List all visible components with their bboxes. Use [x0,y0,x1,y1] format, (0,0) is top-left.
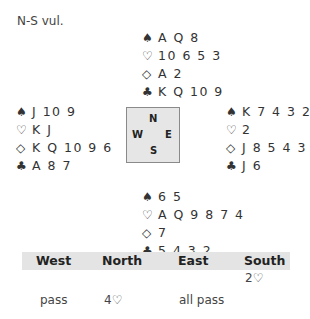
auction-header: West North East South [22,252,290,270]
heart-icon: ♡ [142,207,158,224]
header-north: North [102,253,142,268]
south-spades: ♠6 5 [142,188,245,206]
diamond-icon: ◇ [226,140,242,157]
west-clubs: ♣A 8 7 [16,157,113,175]
heart-icon: ♡ [142,48,158,65]
diamond-icon: ◇ [142,225,158,242]
diamond-icon: ◇ [142,66,158,83]
spade-icon: ♠ [16,104,32,121]
north-clubs: ♣K Q 10 9 [142,83,224,101]
north-spades: ♠A Q 8 [142,29,224,47]
bid-south-1: 2♡ [245,271,263,285]
east-diamonds: ◇J 8 5 4 3 [226,139,310,157]
south-hearts: ♡A Q 9 8 7 4 [142,206,245,224]
heart-icon: ♡ [16,122,32,139]
bid-east-2: all pass [179,293,224,307]
club-icon: ♣ [142,84,158,101]
compass-south: S [150,145,157,156]
east-hand: ♠K 7 4 3 2 ♡2 ◇J 8 5 4 3 ♣J 6 [226,103,310,175]
north-diamonds: ◇A 2 [142,65,224,83]
west-hearts: ♡K J [16,121,113,139]
bid-north-2: 4♡ [104,293,122,307]
west-spades: ♠J 10 9 [16,103,113,121]
east-spades: ♠K 7 4 3 2 [226,103,310,121]
compass-west: W [132,129,143,140]
header-west: West [36,253,71,268]
south-diamonds: ◇7 [142,224,245,242]
compass-east: E [165,129,172,140]
diamond-icon: ◇ [16,140,32,157]
vulnerability-label: N-S vul. [17,14,64,28]
bid-west-2: pass [40,293,67,307]
spade-icon: ♠ [142,30,158,47]
auction-table: West North East South 2♡ pass 4♡ all pas… [22,252,290,270]
west-diamonds: ◇K Q 10 9 6 [16,139,113,157]
south-hand: ♠6 5 ♡A Q 9 8 7 4 ◇7 ♣5 4 3 2 [142,188,245,260]
spade-icon: ♠ [142,189,158,206]
heart-icon: ♡ [226,122,242,139]
header-south: South [244,253,285,268]
east-clubs: ♣J 6 [226,157,310,175]
header-east: East [178,253,208,268]
club-icon: ♣ [16,158,32,175]
club-icon: ♣ [226,158,242,175]
spade-icon: ♠ [226,104,242,121]
east-hearts: ♡2 [226,121,310,139]
compass-north: N [149,113,157,124]
north-hand: ♠A Q 8 ♡10 6 5 3 ◇A 2 ♣K Q 10 9 [142,29,224,101]
compass-box: N W E S [126,107,180,163]
west-hand: ♠J 10 9 ♡K J ◇K Q 10 9 6 ♣A 8 7 [16,103,113,175]
north-hearts: ♡10 6 5 3 [142,47,224,65]
